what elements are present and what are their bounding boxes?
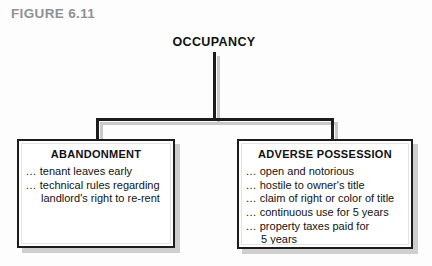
node-list-adverse-possession: ... open and notorious ... hostile to ow…	[239, 165, 411, 246]
node-box-adverse-possession: ADVERSE POSSESSION ... open and notoriou…	[237, 139, 413, 249]
list-item-text: tenant leaves early	[40, 165, 132, 177]
list-item: ... open and notorious	[246, 165, 407, 178]
figure-caption: FIGURE 6.11	[11, 6, 95, 21]
list-item-text: property taxes paid for	[260, 220, 369, 232]
root-node-label: OCCUPANCY	[0, 35, 432, 49]
list-item-text: hostile to owner's title	[260, 179, 365, 191]
connector-bus	[96, 118, 334, 121]
connector-stem-shadow	[217, 56, 220, 122]
list-item: ... technical rules regarding landlord's…	[26, 179, 169, 205]
connector-right-drop	[331, 118, 334, 140]
list-item-text: technical rules regarding	[40, 179, 160, 191]
list-item-lead: ...	[246, 220, 257, 232]
list-item: ... hostile to owner's title	[246, 179, 407, 192]
connector-stem	[213, 52, 216, 120]
list-item-text: open and notorious	[260, 165, 354, 177]
list-item: ... property taxes paid for 5 years	[246, 220, 407, 246]
list-item-lead: ...	[246, 165, 257, 177]
node-list-abandonment: ... tenant leaves early ... technical ru…	[19, 165, 173, 205]
node-heading-abandonment: ABANDONMENT	[19, 148, 173, 160]
list-item-lead: ...	[26, 165, 37, 177]
list-item-text: continuous use for 5 years	[260, 206, 389, 218]
list-item: ... tenant leaves early	[26, 165, 169, 178]
list-item-lead: ...	[26, 179, 37, 191]
list-item-text: claim of right or color of title	[260, 192, 395, 204]
connector-left-drop	[96, 118, 99, 140]
list-item-continuation: 5 years	[246, 233, 407, 246]
list-item-lead: ...	[246, 192, 257, 204]
node-heading-adverse-possession: ADVERSE POSSESSION	[239, 148, 411, 160]
list-item-lead: ...	[246, 179, 257, 191]
list-item-lead: ...	[246, 206, 257, 218]
list-item: ... continuous use for 5 years	[246, 206, 407, 219]
connector-bus-shadow	[100, 122, 338, 125]
figure-diagram: FIGURE 6.11 OCCUPANCY ABANDONMENT ... te…	[0, 0, 432, 266]
node-box-abandonment: ABANDONMENT ... tenant leaves early ... …	[17, 139, 175, 248]
root-node-text: OCCUPANCY	[172, 35, 255, 49]
list-item: ... claim of right or color of title	[246, 192, 407, 205]
list-item-continuation: landlord's right to re-rent	[26, 192, 169, 205]
